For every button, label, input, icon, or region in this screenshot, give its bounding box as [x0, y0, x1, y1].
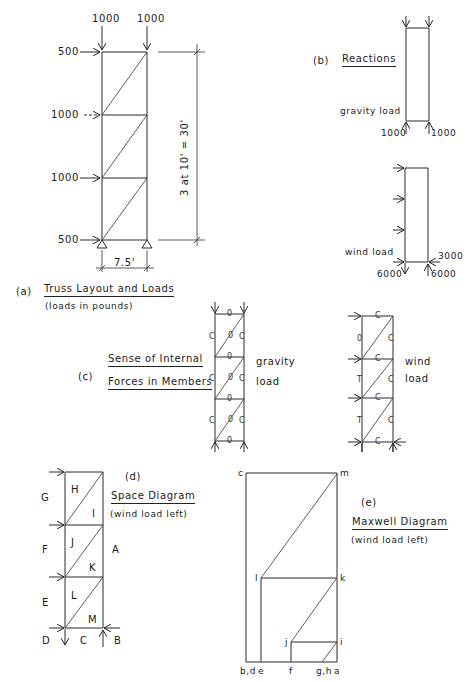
top-load-right: 1000: [137, 14, 165, 24]
compression-symbol: C: [209, 417, 215, 425]
panel-c-title-line1: Sense of Internal: [108, 354, 203, 367]
wind-horizontal-reaction: 3000: [438, 252, 463, 261]
height-dimension: 3 at 10' = 30': [180, 119, 190, 196]
panel-d-tag: (d): [125, 472, 141, 482]
space-label-e: E: [42, 598, 49, 608]
space-label-m: M: [88, 615, 97, 625]
side-load-3: 1000: [51, 173, 79, 183]
maxwell-point-l: l: [255, 574, 258, 583]
space-label-a: A: [112, 545, 119, 555]
space-label-d: D: [42, 636, 50, 646]
side-load-4: 500: [58, 235, 79, 245]
gravity-load-label: gravity load: [340, 107, 401, 116]
compression-symbol: C: [209, 375, 215, 383]
space-label-k: K: [89, 563, 96, 573]
wind-truss-label-2: load: [405, 374, 429, 384]
panel-b-title: Reactions: [342, 54, 396, 67]
compression-symbol: C: [239, 333, 245, 341]
side-load-2: 1000: [51, 110, 79, 120]
zero-force-symbol: 0: [227, 437, 232, 445]
tension-symbol: T: [357, 417, 362, 425]
zero-force-symbol: 0: [228, 374, 233, 382]
zero-force-symbol: 0: [227, 310, 232, 318]
space-label-h: H: [71, 485, 79, 495]
zero-force-symbol: 0: [227, 353, 232, 361]
panel-d-space-diagram: [49, 472, 120, 647]
width-dimension: 7.5': [114, 258, 135, 268]
wind-load-label: wind load: [345, 248, 394, 257]
maxwell-point-j: j: [285, 638, 288, 647]
wind-left-reaction: 6000: [377, 270, 402, 279]
gravity-truss-label-1: gravity: [256, 357, 295, 367]
panel-b-wind-frame: [393, 168, 440, 276]
top-load-left: 1000: [92, 14, 120, 24]
space-label-g: G: [41, 493, 49, 503]
compression-symbol: C: [375, 438, 381, 446]
panel-a-subtitle: (loads in pounds): [45, 302, 133, 311]
panel-c-tag: (c): [78, 372, 93, 382]
space-label-i: I: [92, 509, 96, 519]
compression-symbol: C: [209, 333, 215, 341]
panel-b-gravity-frame: [406, 16, 429, 134]
compression-symbol: C: [388, 417, 394, 425]
side-load-1: 500: [58, 47, 79, 57]
compression-symbol: C: [388, 335, 394, 343]
gravity-right-reaction: 1000: [431, 129, 456, 138]
gravity-left-reaction: 1000: [381, 129, 406, 138]
zero-force-symbol: 0: [227, 395, 232, 403]
panel-e-title: Maxwell Diagram: [352, 517, 448, 530]
space-label-l: L: [71, 591, 77, 601]
panel-d-subtitle: (wind load left): [110, 510, 187, 519]
maxwell-point-m: m: [340, 469, 349, 478]
zero-force-symbol: 0: [228, 332, 233, 340]
zero-force-symbol: 0: [228, 416, 233, 424]
maxwell-point-gh: g,h: [316, 667, 332, 676]
panel-c-title-line2: Forces in Members: [108, 377, 212, 390]
panel-d-title: Space Diagram: [111, 491, 195, 504]
maxwell-point-bd: b,d: [240, 667, 256, 676]
compression-symbol: C: [239, 375, 245, 383]
compression-symbol: C: [375, 312, 381, 320]
panel-a-tag: (a): [16, 287, 32, 297]
wind-truss-label-1: wind: [405, 357, 431, 367]
panel-e-maxwell-diagram: [246, 473, 337, 662]
compression-symbol: C: [239, 417, 245, 425]
space-label-f: F: [42, 545, 48, 555]
space-label-c: C: [80, 636, 88, 646]
maxwell-point-c: c: [238, 469, 244, 478]
maxwell-point-a: a: [334, 667, 340, 676]
maxwell-point-k: k: [340, 574, 346, 583]
wind-right-reaction: 6000: [431, 270, 456, 279]
compression-symbol: C: [375, 355, 381, 363]
panel-e-subtitle: (wind load left): [351, 536, 428, 545]
panel-b-tag: (b): [313, 56, 329, 66]
maxwell-point-f: f: [289, 667, 293, 676]
zero-force-symbol: 0: [357, 335, 362, 343]
panel-e-tag: (e): [361, 498, 377, 508]
compression-symbol: C: [375, 394, 381, 402]
tension-symbol: T: [357, 376, 362, 384]
truss-diagram-artwork: [0, 0, 472, 682]
space-label-j: J: [71, 538, 75, 548]
maxwell-point-i: i: [340, 638, 343, 647]
space-label-b: B: [114, 636, 121, 646]
panel-a-title: Truss Layout and Loads: [44, 284, 174, 297]
compression-symbol: C: [388, 376, 394, 384]
gravity-truss-label-2: load: [256, 377, 280, 387]
maxwell-point-e: e: [258, 667, 264, 676]
